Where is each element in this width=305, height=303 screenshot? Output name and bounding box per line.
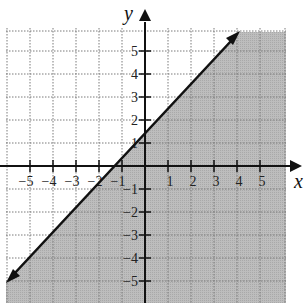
y-axis-label: y: [122, 2, 133, 25]
y-tick-label: 4: [131, 67, 138, 82]
x-tick-label: 1: [167, 174, 174, 189]
x-tick-label: −3: [65, 174, 80, 189]
x-axis-label: x: [293, 170, 303, 192]
y-tick-label: 3: [131, 90, 138, 105]
y-tick-label: −2: [123, 205, 138, 220]
x-tick-label: −4: [42, 174, 57, 189]
x-tick-label: 5: [259, 174, 266, 189]
x-tick-label: 2: [190, 174, 197, 189]
y-tick-label: −3: [123, 228, 138, 243]
y-tick-label: −1: [123, 182, 138, 197]
y-tick-label: 2: [131, 113, 138, 128]
y-tick-label: 5: [131, 44, 138, 59]
y-tick-label: −4: [123, 251, 138, 266]
x-tick-label: 3: [213, 174, 220, 189]
y-axis-arrow-icon: [139, 9, 151, 21]
x-tick-label: −5: [19, 174, 34, 189]
x-tick-label: 4: [236, 174, 243, 189]
coordinate-plane: −5 −4 −3 −2 −1 1 2 3 4 5 5 4 3 2 1 −1 −2…: [0, 0, 305, 303]
y-tick-label: −5: [123, 274, 138, 289]
